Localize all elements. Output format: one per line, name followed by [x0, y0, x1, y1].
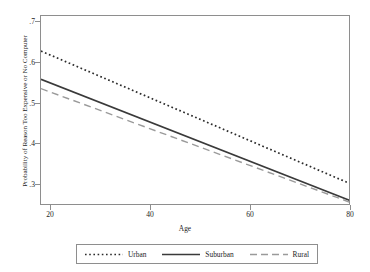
x-axis-title: Age [0, 224, 370, 233]
legend-label-rural: Rural [292, 250, 309, 259]
legend-swatch-suburban-solid-icon [162, 251, 200, 258]
legend[interactable]: Urban Suburban Rural [76, 244, 318, 264]
legend-item-suburban[interactable]: Suburban [162, 250, 233, 259]
legend-label-urban: Urban [127, 250, 146, 259]
x-tick-label-3: 80 [337, 210, 363, 219]
y-tick-label-1: .6 [18, 58, 35, 67]
plot-area [40, 15, 350, 205]
y-tick-label-0: .7 [18, 17, 35, 26]
series-line-rural [41, 89, 349, 203]
x-tick-label-0: 20 [37, 210, 63, 219]
series-line-urban [41, 51, 349, 184]
legend-label-suburban: Suburban [204, 250, 233, 259]
series-line-suburban [41, 79, 349, 201]
line-chart: Probability of Reason Too Expensive or N… [0, 0, 370, 272]
legend-item-urban[interactable]: Urban [85, 250, 146, 259]
legend-item-rural[interactable]: Rural [250, 250, 309, 259]
legend-swatch-urban-dotted-icon [85, 251, 123, 258]
x-tick-label-1: 40 [137, 210, 163, 219]
y-tick-label-2: .5 [18, 99, 35, 108]
x-tick-label-2: 60 [237, 210, 263, 219]
series-canvas [41, 16, 349, 204]
y-tick-label-4: .3 [18, 180, 35, 189]
y-tick-label-3: .4 [18, 139, 35, 148]
legend-swatch-rural-dashed-icon [250, 251, 288, 258]
